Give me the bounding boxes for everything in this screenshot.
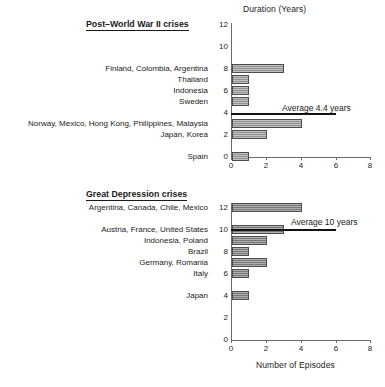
bottom-xtick-0: 0 [224, 344, 238, 353]
bottom-xtick-mark-0 [231, 340, 232, 343]
bottom-average-label: Average 10 years [291, 217, 357, 227]
bottom-bar-indonesia-poland [232, 236, 267, 245]
figure-panel-two-bar-charts: Duration (Years) Post–World War II crise… [0, 0, 385, 387]
bottom-average-line [231, 229, 336, 231]
bottom-xtick-mark-4 [301, 340, 302, 343]
bottom-chart-axis-title: Number of Episodes [256, 360, 335, 370]
bottom-bar-argentina-canada-chile-mexico [232, 203, 302, 212]
bottom-xtick-8: 8 [363, 344, 377, 353]
bottom-plot-area: Average 10 years 0 2 4 6 8 Number of Epi… [0, 0, 385, 387]
bottom-xtick-6: 6 [329, 344, 343, 353]
bottom-xtick-2: 2 [259, 344, 273, 353]
bottom-xtick-4: 4 [294, 344, 308, 353]
bottom-xtick-mark-6 [336, 340, 337, 343]
bottom-bar-japan [232, 291, 249, 300]
bottom-bar-germany-romania [232, 258, 267, 267]
bottom-xtick-mark-8 [370, 340, 371, 343]
bottom-bar-italy [232, 269, 249, 278]
bottom-xtick-mark-2 [266, 340, 267, 343]
bottom-bar-brazil [232, 247, 249, 256]
